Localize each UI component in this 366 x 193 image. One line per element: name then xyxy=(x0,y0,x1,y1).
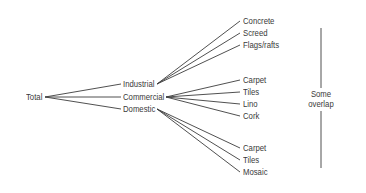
node-total: Total xyxy=(26,92,42,102)
edge-commercial-lino xyxy=(166,97,240,104)
leaf-commercial-lino: Lino xyxy=(243,99,258,109)
edge-commercial-cork xyxy=(166,97,240,116)
leaf-industrial-flags-rafts: Flags/rafts xyxy=(243,40,279,50)
leaf-commercial-cork: Cork xyxy=(243,111,259,121)
leaf-industrial-concrete: Concrete xyxy=(243,16,274,26)
edge-industrial-screed xyxy=(157,33,240,84)
edge-domestic-tiles xyxy=(157,109,240,160)
leaf-domestic-tiles: Tiles xyxy=(243,155,259,165)
overlap-label-line1: Some xyxy=(304,89,338,99)
tree-diagram: Total Industrial Commercial Domestic Con… xyxy=(0,0,366,193)
edge-industrial-concrete xyxy=(157,21,240,84)
leaf-domestic-mosaic: Mosaic xyxy=(243,167,268,177)
node-domestic: Domestic xyxy=(123,104,155,114)
leaf-industrial-screed: Screed xyxy=(243,28,268,38)
node-industrial: Industrial xyxy=(123,79,154,89)
leaf-commercial-carpet: Carpet xyxy=(243,75,266,85)
leaf-domestic-carpet: Carpet xyxy=(243,143,266,153)
edge-domestic-mosaic xyxy=(157,109,240,172)
edge-total-industrial xyxy=(45,84,121,97)
edge-domestic-carpet xyxy=(157,109,240,148)
edge-total-domestic xyxy=(45,97,121,109)
overlap-label-line2: overlap xyxy=(304,99,338,109)
node-commercial: Commercial xyxy=(123,92,164,102)
edge-industrial-flags xyxy=(157,45,240,84)
leaf-commercial-tiles: Tiles xyxy=(243,87,259,97)
